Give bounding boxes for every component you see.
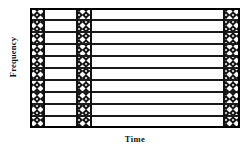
plot-area [30, 8, 240, 128]
plot-canvas [30, 8, 240, 128]
x-axis-label: Time [30, 134, 240, 144]
time-frequency-diagram: Frequency [0, 0, 251, 151]
y-axis-label: Frequency [8, 27, 18, 87]
